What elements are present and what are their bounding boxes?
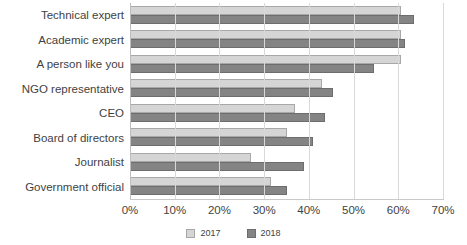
category-label: Technical expert xyxy=(0,3,124,28)
category-label: Academic expert xyxy=(0,28,124,53)
legend-item-2018[interactable]: 2018 xyxy=(247,228,281,238)
x-axis-tick-label: 0% xyxy=(110,201,150,219)
x-axis-tick-label: 60% xyxy=(378,201,418,219)
legend-label: 2018 xyxy=(261,228,281,238)
legend-item-2017[interactable]: 2017 xyxy=(186,228,220,238)
gridline-40pct xyxy=(309,3,310,199)
x-axis-tick-label: 50% xyxy=(334,201,374,219)
gridline-60pct xyxy=(398,3,399,199)
legend-swatch-icon xyxy=(186,229,195,238)
plot-area xyxy=(130,3,443,199)
x-axis-tick-label: 40% xyxy=(289,201,329,219)
x-axis-tick-label: 20% xyxy=(199,201,239,219)
category-label: Board of directors xyxy=(0,126,124,151)
x-axis: 0%10%20%30%40%50%60%70% xyxy=(0,201,467,221)
category-label: Journalist xyxy=(0,150,124,175)
gridline-20pct xyxy=(219,3,220,199)
gridline-50pct xyxy=(354,3,355,199)
x-axis-tick-label: 10% xyxy=(155,201,195,219)
category-label: A person like you xyxy=(0,52,124,77)
chart-legend: 20172018 xyxy=(0,224,467,242)
x-axis-tick-label: 30% xyxy=(244,201,284,219)
category-label: Government official xyxy=(0,175,124,200)
gridline-70pct xyxy=(443,3,444,199)
category-label: CEO xyxy=(0,101,124,126)
legend-label: 2017 xyxy=(200,228,220,238)
x-axis-line xyxy=(130,199,444,200)
y-axis-line xyxy=(130,3,131,199)
gridline-30pct xyxy=(264,3,265,199)
category-label: NGO representative xyxy=(0,77,124,102)
legend-swatch-icon xyxy=(247,229,256,238)
x-axis-tick-label: 70% xyxy=(423,201,463,219)
bar-chart: Technical expertAcademic expertA person … xyxy=(0,0,467,245)
gridline-10pct xyxy=(175,3,176,199)
